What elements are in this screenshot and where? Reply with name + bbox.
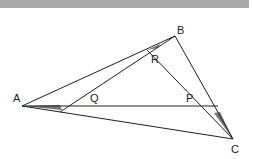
triangle-diagram: A B C R Q P — [0, 0, 253, 159]
label-c: C — [231, 143, 239, 155]
label-q: Q — [90, 92, 99, 104]
segment-ac — [22, 106, 233, 139]
label-p: P — [186, 92, 193, 104]
segment-b-q — [60, 36, 175, 112]
label-a: A — [13, 92, 21, 104]
label-r: R — [151, 53, 159, 65]
label-b: B — [177, 24, 184, 36]
